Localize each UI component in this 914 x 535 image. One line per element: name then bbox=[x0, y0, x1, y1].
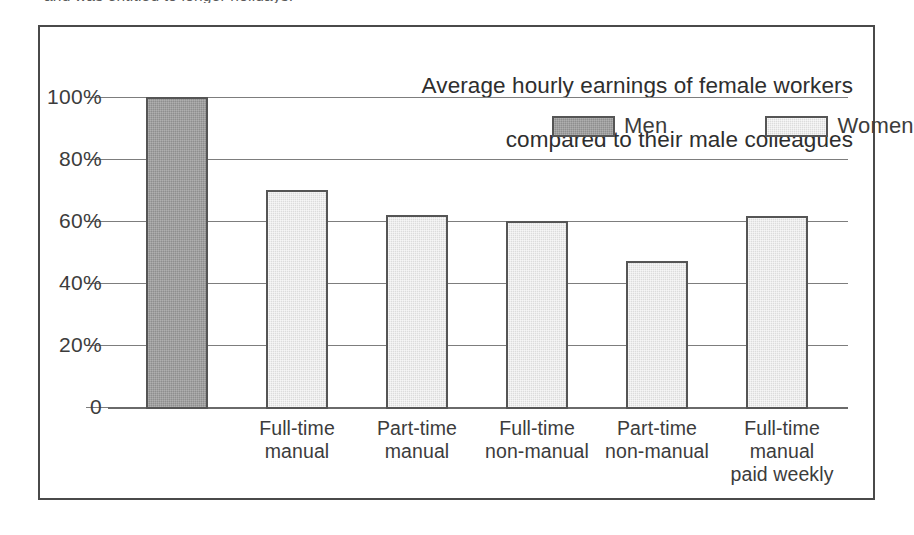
xtick-label-full-time-manual: Full-time manual bbox=[232, 417, 362, 463]
gridline-80 bbox=[108, 159, 848, 160]
bar-full-time-manual-paid-weekly bbox=[746, 216, 808, 409]
gridline-100 bbox=[108, 97, 848, 98]
cutoff-body-text: and was entitled to longer holidays. bbox=[44, 0, 464, 3]
ytick-label-100: 100% bbox=[36, 85, 102, 109]
xtick-label-part-time-non-manual: Part-time non-manual bbox=[587, 417, 727, 463]
gridline-60 bbox=[108, 221, 848, 222]
xtick-label-full-time-non-manual: Full-time non-manual bbox=[467, 417, 607, 463]
bar-part-time-non-manual bbox=[626, 261, 688, 409]
bar-men bbox=[146, 97, 208, 409]
gridline-40 bbox=[108, 283, 848, 284]
bar-full-time-manual bbox=[266, 190, 328, 409]
ytick-label-80: 80% bbox=[36, 147, 102, 171]
ytick-label-60: 60% bbox=[36, 209, 102, 233]
ytick-label-40: 40% bbox=[36, 271, 102, 295]
ytick-label-0: 0 bbox=[36, 395, 102, 419]
ytick-label-20: 20% bbox=[36, 333, 102, 357]
figure-frame: Average hourly earnings of female worker… bbox=[38, 25, 875, 500]
xtick-label-full-time-manual-paid-weekly: Full-time manual paid weekly bbox=[712, 417, 852, 486]
bar-part-time-manual bbox=[386, 215, 448, 409]
axis-baseline bbox=[108, 407, 848, 409]
plot-area: 100% 80% 60% 40% 20% 0 bbox=[40, 27, 873, 498]
bar-full-time-non-manual bbox=[506, 221, 568, 409]
xtick-label-part-time-manual: Part-time manual bbox=[352, 417, 482, 463]
gridline-20 bbox=[108, 345, 848, 346]
